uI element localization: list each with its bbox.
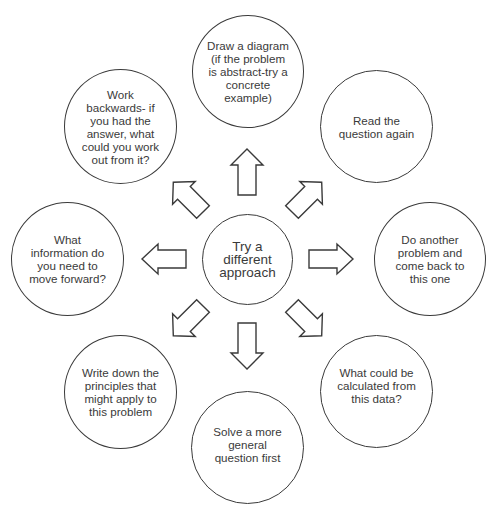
node-bottom: Solve a more general question first <box>191 391 304 504</box>
node-bottom-right-line: this data? <box>337 392 416 405</box>
node-left: What information do you need to move for… <box>11 202 124 316</box>
node-top-right-label: Read the question again <box>331 114 422 140</box>
node-bottom-left-line: principles that <box>82 379 159 392</box>
node-right-line: this one <box>396 272 465 285</box>
node-center-label: Try a different approach <box>215 240 279 279</box>
node-top-left-line: could you work <box>82 140 159 153</box>
node-left-label: What information do you need to move for… <box>21 233 114 285</box>
node-bottom-right-label: What could be calculated from this data? <box>329 366 424 405</box>
node-center-line: approach <box>219 266 275 279</box>
node-top-left: Work backwards- if you had the answer, w… <box>64 69 177 184</box>
node-bottom-left-line: might apply to <box>82 392 159 405</box>
node-left-line: you need to <box>29 259 106 272</box>
arrow-to-bottom-left <box>162 295 214 347</box>
node-left-line: move forward? <box>29 272 106 285</box>
node-right-line: come back to <box>396 259 465 272</box>
arrow-to-right <box>309 244 353 274</box>
arrow-to-top-right <box>281 171 333 223</box>
node-top-line: Draw a diagram <box>207 39 289 52</box>
node-right-line: problem and <box>396 246 465 259</box>
node-top-right: Read the question again <box>320 70 433 183</box>
node-bottom-line: Solve a more <box>213 425 281 438</box>
node-bottom-left-line: this problem <box>82 405 159 418</box>
node-top-left-label: Work backwards- if you had the answer, w… <box>74 88 167 166</box>
node-bottom-label: Solve a more general question first <box>205 425 289 464</box>
node-bottom-left: Write down the principles that might app… <box>64 335 177 449</box>
node-bottom-line: question first <box>213 451 281 464</box>
node-top: Draw a diagram (if the problem is abstra… <box>192 15 304 128</box>
node-top-left-line: out from it? <box>82 153 159 166</box>
node-top-left-line: Work <box>82 88 159 101</box>
node-top-line: example) <box>207 91 289 104</box>
node-top-line: concrete <box>207 78 289 91</box>
node-left-line: information do <box>29 246 106 259</box>
node-top-right-line: Read the <box>339 114 414 127</box>
arrow-to-top <box>231 149 263 195</box>
arrow-to-bottom <box>231 323 263 369</box>
problem-solving-diagram: Draw a diagram (if the problem is abstra… <box>0 0 496 516</box>
node-bottom-left-label: Write down the principles that might app… <box>74 366 167 418</box>
arrow-to-bottom-right <box>281 295 333 347</box>
node-top-line: (if the problem <box>207 52 289 65</box>
arrow-to-top-left <box>162 171 214 223</box>
node-top-line: is abstract-try a <box>207 65 289 78</box>
node-center: Try a different approach <box>202 214 293 305</box>
node-right-line: Do another <box>396 233 465 246</box>
node-left-line: What <box>29 233 106 246</box>
node-right: Do another problem and come back to this… <box>374 202 486 316</box>
node-bottom-right: What could be calculated from this data? <box>320 335 433 448</box>
node-bottom-right-line: What could be <box>337 366 416 379</box>
node-top-right-line: question again <box>339 127 414 140</box>
node-right-label: Do another problem and come back to this… <box>388 233 473 285</box>
node-bottom-left-line: Write down the <box>82 366 159 379</box>
node-bottom-right-line: calculated from <box>337 379 416 392</box>
node-bottom-line: general <box>213 438 281 451</box>
node-top-left-line: you had the <box>82 114 159 127</box>
node-top-left-line: answer, what <box>82 127 159 140</box>
arrow-to-left <box>142 244 186 274</box>
node-top-label: Draw a diagram (if the problem is abstra… <box>199 39 297 104</box>
node-top-left-line: backwards- if <box>82 101 159 114</box>
